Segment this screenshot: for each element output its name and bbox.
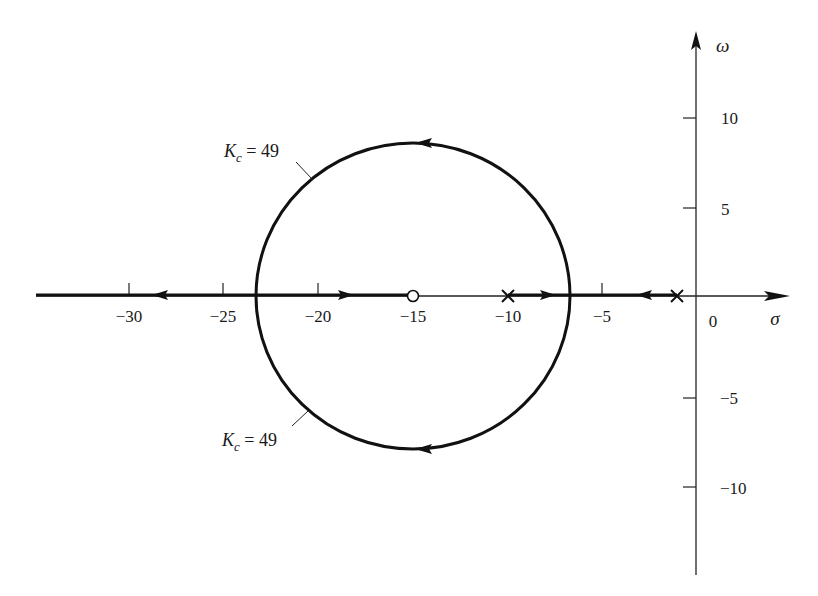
gain-symbol: K — [221, 430, 235, 450]
svg-text:Kc = 49: Kc = 49 — [221, 430, 277, 454]
gain-value: = 49 — [242, 141, 279, 161]
sigma-tick-label: −10 — [495, 307, 522, 326]
sigma-tick-label: −25 — [210, 307, 237, 326]
svg-text:Kc = 49: Kc = 49 — [223, 141, 279, 165]
omega-ticks — [683, 118, 696, 487]
omega-tick-label: −5 — [720, 389, 738, 408]
omega-tick-label: 10 — [721, 109, 738, 128]
omega-axis: 10 5 −5 −10 ω — [683, 31, 747, 575]
omega-axis-label: ω — [716, 35, 729, 56]
origin-label: 0 — [709, 312, 718, 331]
gain-symbol: K — [223, 141, 237, 161]
zero-marker-icon — [408, 291, 419, 302]
gain-annotation-lower: Kc = 49 — [221, 411, 308, 454]
sigma-tick-label: −20 — [305, 307, 332, 326]
sigma-axis-label: σ — [770, 308, 780, 329]
sigma-tick-label: −30 — [116, 307, 143, 326]
root-locus-plot: −30 −25 −20 −15 −10 −5 0 σ 10 5 −5 −10 ω — [0, 0, 818, 596]
sigma-tick-label: −15 — [400, 307, 427, 326]
sigma-tick-label: −5 — [593, 307, 611, 326]
omega-tick-label: 5 — [721, 200, 730, 219]
gain-annotation-upper: Kc = 49 — [223, 141, 312, 179]
gain-value: = 49 — [240, 430, 277, 450]
omega-tick-label: −10 — [720, 479, 747, 498]
real-axis-locus — [36, 290, 677, 300]
